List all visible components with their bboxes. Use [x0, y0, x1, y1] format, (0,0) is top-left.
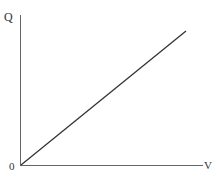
data-line [21, 31, 186, 165]
chart: Q 0 V [0, 0, 217, 179]
y-axis-label: Q [4, 10, 13, 24]
x-axis-label: V [204, 159, 212, 171]
origin-label: 0 [9, 160, 15, 172]
